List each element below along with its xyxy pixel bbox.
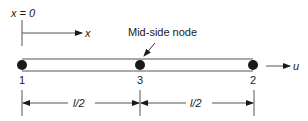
node-3-label: 3 xyxy=(137,74,143,86)
node-2-label: 2 xyxy=(250,74,256,86)
node-3 xyxy=(135,60,145,70)
x-axis-label: x xyxy=(84,27,91,39)
node-1 xyxy=(17,60,27,70)
node-2 xyxy=(248,60,258,70)
dim-1-3-label: l/2 xyxy=(73,97,85,109)
origin-label: x = 0 xyxy=(10,7,36,19)
mid-side-node-label: Mid-side node xyxy=(128,26,197,38)
bar-element-diagram: x = 0 x Mid-side node 1 3 2 u l/2 l/2 xyxy=(0,0,308,121)
callout-arrow xyxy=(144,43,155,56)
displacement-label: u xyxy=(293,60,299,72)
node-1-label: 1 xyxy=(19,74,25,86)
dim-3-2-label: l/2 xyxy=(190,97,202,109)
